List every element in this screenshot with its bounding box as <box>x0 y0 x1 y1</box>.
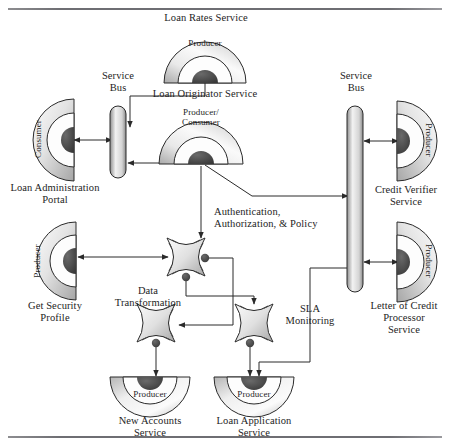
label-loan-administration-portal: Loan Administration Portal <box>0 182 110 206</box>
node-data-transformation[interactable] <box>137 304 175 347</box>
label-authentication-authorization-policy: Authentication, Authorization, & Policy <box>214 206 384 230</box>
label-service-bus-right: Service Bus <box>320 70 392 94</box>
link-originator-to-rightbus <box>205 165 348 196</box>
node-role-credit-verifier: Producer <box>424 110 434 170</box>
label-sla-monitoring: SLA Monitoring <box>274 303 346 327</box>
node-authentication-authorization-policy[interactable] <box>167 238 209 281</box>
node-loan-rates-service[interactable] <box>164 42 246 83</box>
node-loan-originator-service[interactable] <box>159 122 243 164</box>
node-role-loan-rates: Producer <box>168 38 242 48</box>
service-bus-left[interactable] <box>110 106 126 178</box>
label-loan-application-service: Loan Application Service <box>200 415 308 439</box>
label-new-accounts-service: New Accounts Service <box>98 415 202 439</box>
diagram-canvas: Loan Rates Service Producer Service Bus … <box>0 0 450 448</box>
node-role-loan-originator: Producer/ Consumer <box>164 107 238 127</box>
label-data-transformation: Data Transformation <box>92 285 204 309</box>
node-role-letter-of-credit: Producer <box>424 231 434 291</box>
node-get-security-profile[interactable] <box>37 222 76 300</box>
node-role-loan-admin-portal: Consumer <box>33 109 43 169</box>
node-role-get-security: Producer <box>32 231 42 291</box>
node-role-loan-application: Producer <box>227 389 281 399</box>
node-sla-monitoring[interactable] <box>235 304 273 347</box>
service-bus-right[interactable] <box>347 106 363 292</box>
node-role-new-accounts: Producer <box>123 389 177 399</box>
label-credit-verifier-service: Credit Verifier Service <box>362 184 450 208</box>
label-loan-originator-service: Loan Originator Service <box>126 88 284 100</box>
label-letter-of-credit-processor-service: Letter of Credit Processor Service <box>358 300 450 336</box>
label-loan-rates-service: Loan Rates Service <box>130 12 282 24</box>
